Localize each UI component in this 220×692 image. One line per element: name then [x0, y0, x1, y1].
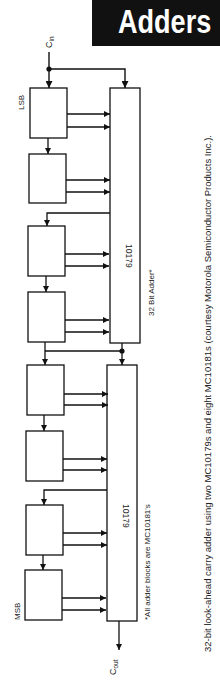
- msb-label: MSB: [13, 603, 22, 620]
- gp-signals: [62, 114, 110, 610]
- adder-block-8: [25, 570, 62, 620]
- carry-in-label: Cin: [44, 36, 55, 48]
- adder-block-4: [28, 292, 65, 342]
- adder-block-1: [30, 88, 67, 138]
- adder-block-2: [29, 154, 66, 203]
- lookahead-units: [107, 88, 140, 621]
- adder-blocks: [25, 88, 67, 620]
- inter-unit-carry: [45, 343, 125, 365]
- adder-block-5: [27, 365, 64, 415]
- lookahead-upper-label: 10179: [124, 244, 134, 268]
- carry-out: Cout: [108, 621, 119, 675]
- lookahead-unit-upper: [110, 88, 140, 343]
- carry-in: Cin: [44, 36, 125, 88]
- lookahead-unit-lower: [107, 365, 137, 621]
- lsb-label: LSB: [17, 95, 26, 110]
- adder-diagram: Cin LSB MSB: [0, 0, 220, 692]
- lookahead-lower-label: 10179: [121, 504, 131, 528]
- carry-out-label: Cout: [108, 659, 119, 675]
- footnote: *All adder blocks are MC10181's: [143, 504, 152, 620]
- adder-block-3: [28, 226, 65, 276]
- adder-block-6: [26, 431, 63, 481]
- adder-block-7: [26, 505, 63, 555]
- adder-title: 32 Bit Adder*: [147, 269, 156, 316]
- figure-caption: 32-bit look-ahead carry adder using two …: [202, 135, 213, 652]
